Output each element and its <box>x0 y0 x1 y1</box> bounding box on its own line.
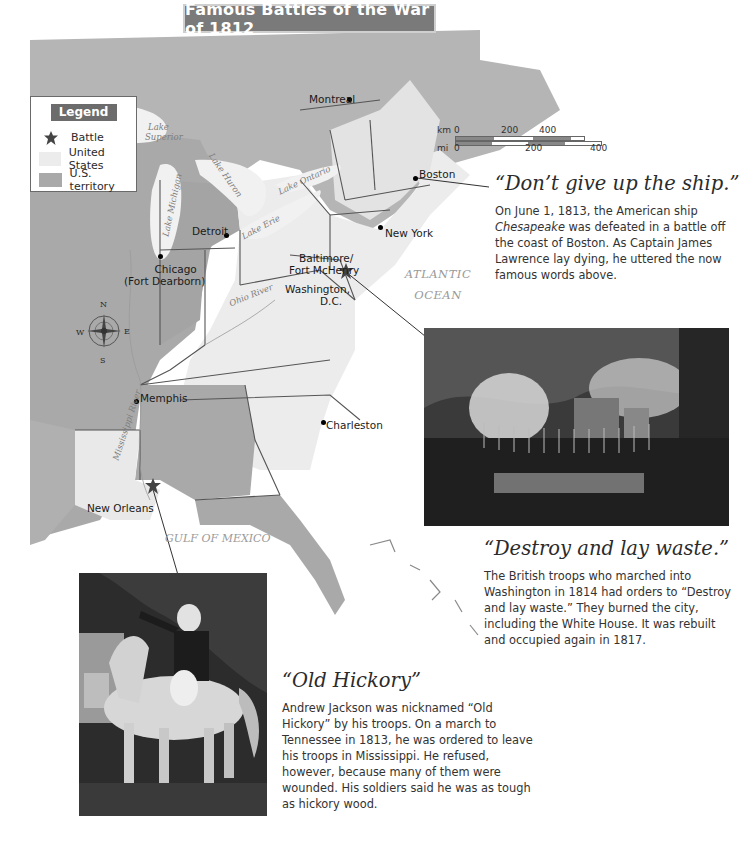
scale-mi-label: mi <box>437 143 448 153</box>
callout-body: On June 1, 1813, the American ship Chesa… <box>495 203 735 283</box>
callout-body: The British troops who marched into Wash… <box>484 568 734 648</box>
united-states-swatch <box>39 152 61 166</box>
battle-icon-new-orleans[interactable] <box>145 478 161 494</box>
atlantic-line1: ATLANTIC <box>398 264 478 285</box>
lake-superior-line2: Superior <box>145 132 183 142</box>
compass-rose: N W E S <box>80 300 130 370</box>
city-label-baltimore: Baltimore/ Fort McHenry <box>289 252 359 276</box>
ship-name: Chesapeake <box>495 220 565 234</box>
scale-km-0: 0 <box>454 125 460 135</box>
engraving-illustration <box>424 328 729 526</box>
callout-title: “Don’t give up the ship.” <box>495 172 735 195</box>
city-label-boston: Boston <box>419 168 455 180</box>
washington-name: Washington, <box>285 283 350 295</box>
us-territory-swatch <box>39 173 62 187</box>
andrew-jackson-image <box>79 573 267 816</box>
legend-item-us-territory: U.S. territory <box>31 169 136 190</box>
chicago-name: Chicago <box>124 263 205 275</box>
chicago-fort-dearborn: (Fort Dearborn) <box>124 275 205 287</box>
atlantic-line2: OCEAN <box>398 285 478 306</box>
city-label-new-orleans: New Orleans <box>87 502 154 514</box>
city-dot-new-york <box>378 225 383 230</box>
city-label-montreal: Montreal <box>309 93 355 105</box>
baltimore-name: Baltimore/ <box>289 252 359 264</box>
city-dot-chicago <box>158 254 163 259</box>
city-label-new-york: New York <box>385 227 433 239</box>
scale-bar: km 0 200 400 mi 0 200 400 <box>437 124 607 154</box>
callout-chesapeake: “Don’t give up the ship.” On June 1, 181… <box>495 172 735 283</box>
atlantic-ocean-label: ATLANTIC OCEAN <box>398 264 478 306</box>
scale-km-200: 200 <box>501 125 518 135</box>
compass-icon <box>85 312 123 350</box>
city-label-detroit: Detroit <box>192 225 228 237</box>
scale-mi-400: 400 <box>590 143 607 153</box>
body-pre: On June 1, 1813, the American ship <box>495 204 698 218</box>
scale-km-400: 400 <box>539 125 556 135</box>
compass-e: E <box>124 327 130 336</box>
city-label-memphis: Memphis <box>140 392 187 404</box>
burning-of-washington-image <box>424 328 729 526</box>
dc-name: D.C. <box>285 295 350 307</box>
legend-label-us-territory: U.S. territory <box>70 167 136 193</box>
legend-label-battle: Battle <box>71 131 104 144</box>
legend: Legend Battle United States U.S. territo… <box>30 96 137 192</box>
city-dot-boston <box>413 176 418 181</box>
scale-mi-0: 0 <box>454 143 460 153</box>
compass-s: S <box>100 356 105 365</box>
compass-n: N <box>100 300 107 309</box>
callout-title: “Old Hickory” <box>282 669 542 692</box>
lake-superior-line1: Lake <box>145 122 183 132</box>
callout-body: Andrew Jackson was nicknamed “Old Hickor… <box>282 700 542 812</box>
scale-mi-200: 200 <box>525 143 542 153</box>
fort-mchenry-name: Fort McHenry <box>289 264 359 276</box>
compass-w: W <box>76 328 84 337</box>
city-label-charleston: Charleston <box>326 419 383 431</box>
portrait-illustration <box>79 573 267 816</box>
callout-burning-of-washington: “Destroy and lay waste.” The British tro… <box>484 537 734 648</box>
callout-old-hickory: “Old Hickory” Andrew Jackson was nicknam… <box>282 669 542 812</box>
battle-starburst-icon <box>39 131 63 145</box>
map-title-banner: Famous Battles of the War of 1812 <box>183 4 436 33</box>
city-label-washington: Washington, D.C. <box>285 283 350 307</box>
callout-title: “Destroy and lay waste.” <box>484 537 734 560</box>
city-label-chicago: Chicago (Fort Dearborn) <box>124 263 205 287</box>
gulf-of-mexico-label: GULF OF MEXICO <box>165 532 271 545</box>
lake-superior-label: Lake Superior <box>145 122 183 142</box>
scale-km-label: km <box>437 125 451 135</box>
legend-title: Legend <box>51 104 117 121</box>
